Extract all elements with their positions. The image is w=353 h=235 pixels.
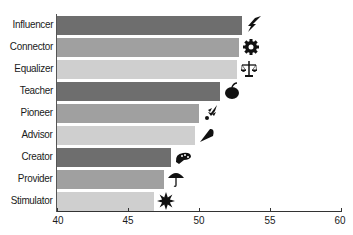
x-tick-label: 40 — [45, 214, 72, 226]
bar-provider — [57, 170, 164, 189]
x-tick — [341, 208, 342, 212]
category-label: Provider — [18, 172, 53, 184]
bar-teacher — [57, 82, 220, 101]
category-label: Advisor — [22, 128, 53, 140]
x-tick — [199, 208, 200, 212]
lightning-bolt-icon — [245, 15, 263, 33]
megaphone-icon — [198, 126, 216, 144]
rocket-icon — [202, 104, 220, 122]
x-tick-label: 45 — [115, 214, 142, 226]
umbrella-icon — [167, 170, 185, 188]
category-label: Influencer — [12, 18, 53, 30]
bar-pioneer — [57, 104, 199, 123]
bar-chart: Influencer Connector Equalizer Teacher P… — [0, 0, 353, 235]
x-tick-label: 60 — [327, 214, 353, 226]
paint-palette-icon — [174, 148, 192, 166]
category-label: Connector — [10, 40, 53, 52]
scales-icon — [240, 60, 258, 78]
x-tick-label: 55 — [257, 214, 284, 226]
x-tick-label: 50 — [186, 214, 213, 226]
starburst-icon — [157, 192, 175, 210]
bar-stimulator — [57, 192, 154, 211]
x-tick — [128, 208, 129, 212]
bar-advisor — [57, 126, 195, 145]
category-label: Equalizer — [14, 62, 53, 74]
category-label: Creator — [22, 150, 53, 162]
x-tick — [57, 208, 58, 212]
category-label: Pioneer — [21, 106, 53, 118]
bar-connector — [57, 38, 239, 57]
bar-influencer — [57, 16, 242, 35]
gear-icon — [242, 38, 260, 56]
bar-equalizer — [57, 60, 237, 79]
apple-icon — [223, 82, 241, 100]
category-label: Stimulator — [11, 194, 53, 206]
x-tick — [270, 208, 271, 212]
category-label: Teacher — [20, 84, 53, 96]
bar-creator — [57, 148, 171, 167]
